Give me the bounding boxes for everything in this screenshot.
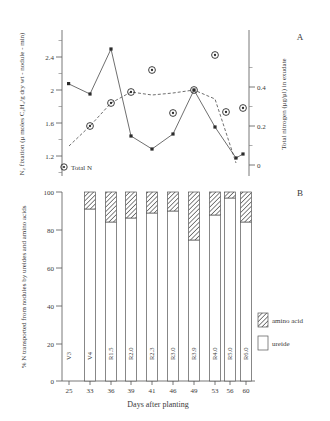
panel-a-y2-axis-label: Total nitrogen (μg/μl) in exudate [280,58,288,149]
y2tick-label: 0.4 [257,84,266,92]
stage-label: R3.9 [190,348,197,360]
xtick-label: 60 [243,387,251,395]
stage-label: R4.0 [211,348,218,360]
xtick-label: 33 [87,387,95,395]
panel-b-x-axis-label: Days after planting [127,400,188,409]
stage-label: R2.0 [127,348,134,360]
y2tick-label: 0 [257,162,261,170]
stage-label: R6.0 [242,348,249,360]
ytick-label: 0 [51,378,55,386]
xtick-label: 49 [191,387,199,395]
legend-label-ureide: ureide [272,340,290,348]
panel-b-letter: B [297,188,303,198]
xtick-label: 46 [170,387,178,395]
stage-label: R2.3 [148,348,155,360]
ytick-label: 2 [51,87,55,95]
stage-label: R1.5 [107,348,114,360]
panel-b-y-ticks: 100 80 60 40 20 0 [44,189,63,386]
y2tick-label: 0.2 [257,123,266,131]
legend-label-total-n: Total N [71,164,92,172]
series-n2-fixation-markers [67,47,245,159]
ytick-label: 80 [47,227,55,235]
legend-swatch-amino-acid [258,313,268,327]
xtick-label: 39 [128,387,136,395]
ytick-label: 20 [47,341,55,349]
figure-svg: 2.4 2 1.6 1.2 0.4 0.2 0 [0,0,330,421]
stage-label: R5.0 [226,348,233,360]
stage-label: V4 [86,351,93,360]
panel-a-letter: A [297,32,304,42]
ytick-label: 60 [47,265,55,273]
panel-b-x-tick-labels: 25 33 36 39 41 46 49 53 56 60 [66,387,251,395]
stage-label: R3.0 [169,348,176,360]
legend-swatch-ureide [258,336,268,350]
ytick-label: 100 [44,189,55,197]
xtick-label: 25 [66,387,74,395]
panel-a-legend: Total N [61,164,92,172]
panel-a: 2.4 2 1.6 1.2 0.4 0.2 0 [18,30,304,176]
panel-b-x-ticks [69,381,246,385]
legend-marker-total-n-dot [63,166,65,168]
ytick-label: 1.6 [45,120,54,128]
ytick-label: 2.4 [45,54,54,62]
panel-b-y-axis-label: % N transported from nodules by ureides … [20,205,28,368]
panel-a-left-ticks: 2.4 2 1.6 1.2 [45,41,62,173]
ytick-label: 40 [47,303,55,311]
xtick-label: 53 [212,387,220,395]
panel-a-y-axis-label: N₂ fixation (μ moles C₂H₄/g dry wt - nod… [18,32,26,176]
figure-container: 2.4 2 1.6 1.2 0.4 0.2 0 [0,0,330,421]
stage-label: V3 [65,352,72,360]
series-total-n-markers [87,52,247,130]
panel-b: 100 80 60 40 20 0 % N transported from n… [20,188,303,409]
legend-label-amino-acid: amino acid [272,317,303,325]
panel-a-right-ticks: 0.4 0.2 0 [249,68,266,170]
xtick-label: 41 [149,387,157,395]
panel-b-legend: amino acid ureide [258,313,303,350]
series-total-n-line [69,90,236,163]
ytick-label: 1.2 [45,153,54,161]
xtick-label: 56 [227,387,235,395]
series-n2-fixation-line [69,49,243,158]
xtick-label: 36 [108,387,116,395]
